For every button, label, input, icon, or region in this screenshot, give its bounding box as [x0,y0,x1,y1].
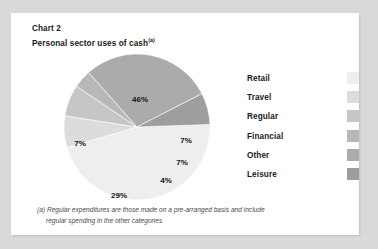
pie-slice-value-label: 46% [132,95,148,104]
legend-item-label: Travel [247,93,271,102]
chart-title-superscript: (a) [148,37,155,43]
pie-slice-group [64,54,210,200]
chart-card: Chart 2 Personal sector uses of cash(a) … [11,13,359,235]
pie-slice-value-label: 7% [176,158,188,167]
pie-chart-svg: 46%7%7%4%29%7% [58,54,216,202]
legend-item-label: Other [247,151,269,160]
chart-title-block: Chart 2 Personal sector uses of cash(a) [32,23,155,49]
legend-swatch-retail [347,72,359,84]
pie-slice-value-label: 7% [74,139,86,148]
chart-number: Chart 2 [32,23,155,35]
legend-item-financial[interactable]: Financial [247,127,359,146]
chart-page: Chart 2 Personal sector uses of cash(a) … [0,0,378,249]
pie-chart: 46%7%7%4%29%7% [58,54,216,202]
legend-item-travel[interactable]: Travel [247,88,359,107]
chart-footnote: (a) Regular expenditures are those made … [37,205,337,226]
pie-slice-value-label: 29% [111,191,127,200]
pie-slice-value-label: 7% [180,136,192,145]
legend-swatch-financial [347,130,359,142]
page-title: Personal sector uses of cash(a) [32,35,155,49]
legend-swatch-leisure [347,168,359,180]
chart-legend: Retail Travel Regular Financial Other Le… [247,69,359,184]
chart-title-text: Personal sector uses of cash [32,38,148,47]
legend-item-label: Financial [247,132,283,141]
legend-item-regular[interactable]: Regular [247,107,359,126]
legend-swatch-other [347,149,359,161]
legend-swatch-regular [347,110,359,122]
legend-swatch-travel [347,91,359,103]
legend-item-leisure[interactable]: Leisure [247,165,359,184]
legend-item-other[interactable]: Other [247,146,359,165]
legend-item-label: Retail [247,74,270,83]
legend-item-label: Leisure [247,170,277,179]
pie-slice-value-label: 4% [160,176,172,185]
footnote-line-2: regular spending in the other categories [37,216,337,227]
legend-item-retail[interactable]: Retail [247,69,359,88]
legend-item-label: Regular [247,112,278,121]
footnote-line-1: (a) Regular expenditures are those made … [37,205,337,216]
